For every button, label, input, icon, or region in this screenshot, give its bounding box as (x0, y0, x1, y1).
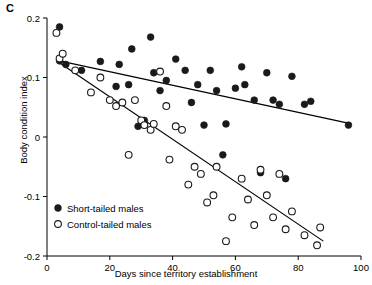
data-point-short-tailed (223, 121, 230, 128)
data-point-short-tailed (241, 81, 248, 88)
figure-panel: C Body condition index Days since territ… (0, 0, 372, 285)
legend-label-short-tailed: Short-tailed males (67, 203, 144, 214)
data-point-short-tailed (182, 67, 189, 74)
data-point-short-tailed (188, 99, 195, 106)
data-point-control-tailed (172, 123, 179, 130)
data-point-short-tailed (157, 87, 164, 94)
data-point-short-tailed (213, 87, 220, 94)
data-point-control-tailed (59, 50, 66, 57)
data-point-control-tailed (245, 196, 252, 203)
data-point-short-tailed (238, 63, 245, 70)
data-point-control-tailed (238, 175, 245, 182)
legend-marker-control-tailed (55, 221, 62, 228)
data-point-control-tailed (197, 170, 204, 177)
y-tick-label: -0.2 (24, 251, 40, 262)
data-point-short-tailed (301, 101, 308, 108)
data-point-control-tailed (166, 156, 173, 163)
data-point-short-tailed (289, 73, 296, 80)
data-point-control-tailed (185, 181, 192, 188)
legend-label-control-tailed: Control-tailed males (67, 219, 152, 230)
data-point-control-tailed (251, 222, 258, 229)
data-point-short-tailed (128, 46, 135, 53)
data-point-control-tailed (204, 199, 211, 206)
data-point-control-tailed (141, 122, 148, 129)
data-point-control-tailed (191, 163, 198, 170)
y-axis-label-text: Body condition index (18, 40, 29, 200)
data-point-short-tailed (62, 61, 69, 68)
data-point-short-tailed (172, 56, 179, 63)
data-point-short-tailed (194, 81, 201, 88)
data-point-control-tailed (179, 126, 186, 133)
data-point-control-tailed (282, 226, 289, 233)
data-point-control-tailed (257, 166, 264, 173)
data-point-short-tailed (147, 34, 154, 41)
data-point-short-tailed (163, 77, 170, 84)
data-point-control-tailed (270, 214, 277, 221)
data-point-short-tailed (125, 81, 132, 88)
x-axis-label: Days since territory establishment (0, 268, 372, 279)
data-point-short-tailed (150, 69, 157, 76)
data-point-control-tailed (97, 74, 104, 81)
data-point-control-tailed (301, 232, 308, 239)
data-point-short-tailed (116, 61, 123, 68)
data-point-control-tailed (314, 242, 321, 249)
data-point-control-tailed (72, 67, 79, 74)
data-point-control-tailed (150, 121, 157, 128)
data-point-short-tailed (282, 175, 289, 182)
data-point-control-tailed (163, 103, 170, 110)
data-point-control-tailed (213, 163, 220, 170)
data-point-short-tailed (263, 69, 270, 76)
data-point-control-tailed (210, 192, 217, 199)
data-point-short-tailed (113, 83, 120, 90)
scatter-plot: 020406080100-0.2-0.100.10.2Short-tailed … (0, 0, 372, 285)
data-point-control-tailed (88, 89, 95, 96)
data-point-short-tailed (270, 97, 277, 104)
legend-marker-short-tailed (55, 205, 62, 212)
data-point-short-tailed (307, 98, 314, 105)
data-point-control-tailed (289, 208, 296, 215)
y-tick-label: 0.2 (27, 13, 40, 24)
data-point-short-tailed (232, 85, 239, 92)
data-point-control-tailed (317, 224, 324, 231)
y-tick-label: 0 (35, 132, 40, 143)
y-axis-label: Body condition index (6, 0, 17, 40)
data-point-control-tailed (263, 192, 270, 199)
data-point-control-tailed (106, 97, 113, 104)
data-point-short-tailed (251, 97, 258, 104)
data-point-control-tailed (157, 68, 164, 75)
data-point-control-tailed (132, 97, 139, 104)
data-point-short-tailed (219, 151, 226, 158)
data-point-control-tailed (113, 103, 120, 110)
data-point-short-tailed (345, 122, 352, 129)
data-point-control-tailed (223, 238, 230, 245)
data-point-short-tailed (201, 122, 208, 129)
data-point-short-tailed (276, 101, 283, 108)
data-point-control-tailed (229, 214, 236, 221)
data-point-short-tailed (207, 67, 214, 74)
data-point-control-tailed (119, 99, 126, 106)
data-point-control-tailed (53, 29, 60, 36)
data-point-control-tailed (125, 151, 132, 158)
regression-line (56, 61, 323, 241)
data-point-short-tailed (97, 58, 104, 65)
data-point-control-tailed (276, 170, 283, 177)
